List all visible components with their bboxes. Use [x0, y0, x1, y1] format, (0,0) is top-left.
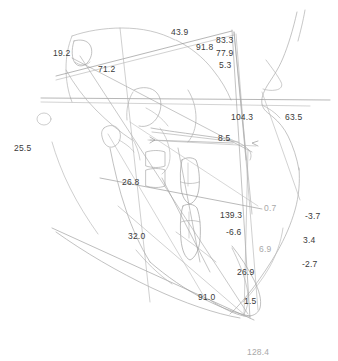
cephalometric-tracing-diagram: 25.519.271.243.991.883.377.95.3104.363.5… — [0, 0, 338, 361]
soft-tissue-lower-face-path — [230, 168, 299, 314]
mandibular-plane-line — [52, 228, 254, 320]
measurement-label-m-3-7: -3.7 — [305, 212, 320, 221]
measurement-label-m-3-4: 3.4 — [303, 236, 315, 245]
soft-tissue-forehead-path — [298, 10, 305, 41]
measurement-label-m-26-8: 26.8 — [122, 178, 139, 187]
tracing-canvas — [0, 0, 338, 361]
frankfort-secondary-line — [41, 102, 310, 106]
soft-tissue-nose-path — [263, 60, 282, 90]
measurement-label-m-32-0: 32.0 — [128, 232, 145, 241]
soft-tissue-profile-path — [262, 12, 299, 170]
esthetic-line — [262, 92, 300, 200]
orbital-rim-path — [134, 88, 161, 127]
cervical-vertebra-path — [52, 142, 98, 234]
soft-tissue-chin-path — [243, 228, 283, 302]
upper-incisor-crown-line — [181, 182, 199, 184]
measurement-label-m-8-5: 8.5 — [218, 134, 230, 143]
y-axis-line — [80, 56, 248, 314]
posterior-cranial-base-path — [66, 70, 132, 140]
anterior-cranial-base-path — [66, 36, 72, 102]
porion-ellipse — [37, 113, 51, 125]
measurement-label-m-83-3: 83.3 — [216, 36, 233, 45]
zygomatic-process-path — [146, 108, 168, 126]
soft-tissue-upper-lip-path — [262, 105, 280, 118]
measurement-label-m-77-9: 77.9 — [216, 49, 233, 58]
condyle-path — [102, 126, 121, 148]
measurement-label-m-104-3: 104.3 — [231, 113, 253, 122]
sigmoid-notch-path — [119, 140, 134, 152]
measurement-label-m-5-3: 5.3 — [219, 61, 231, 70]
measurement-label-m-6-9: 6.9 — [259, 245, 271, 254]
measurement-label-m-1-5: 1.5 — [244, 297, 256, 306]
measurement-label-m-0-7: 0.7 — [264, 204, 276, 213]
upper-incisor-outline-path — [180, 158, 199, 204]
measurement-label-m-26-9: 26.9 — [237, 268, 254, 277]
measurement-label-m-25-5: 25.5 — [14, 144, 31, 153]
cranial-vault-outline-path — [72, 28, 175, 40]
measurement-label-m-2-7: -2.7 — [302, 260, 317, 269]
measurement-label-m-91-8: 91.8 — [196, 43, 213, 52]
gonial-angle-path — [136, 250, 172, 284]
measurement-label-m-63-5: 63.5 — [285, 113, 302, 122]
measurement-label-m-91-0: 91.0 — [198, 293, 215, 302]
lower-incisor-axis-line — [162, 178, 210, 272]
palatal-arrow-right — [252, 141, 258, 146]
measurement-label-m-71-2: 71.2 — [98, 65, 115, 74]
gonion-menton-line — [118, 206, 246, 316]
mandibular-lower-border-path — [56, 232, 240, 318]
measurement-label-m-43-9: 43.9 — [171, 28, 188, 37]
upper-molar-outline-path — [146, 151, 165, 168]
frankfort-horizontal-line — [41, 98, 330, 100]
sn-plane-line — [56, 31, 232, 76]
measurement-label-m-128-4: 128.4 — [247, 348, 269, 357]
measurement-label-m-6-6: -6.6 — [226, 228, 241, 237]
measurement-label-m-19-2: 19.2 — [53, 49, 70, 58]
measurement-label-m-139-3: 139.3 — [220, 211, 242, 220]
